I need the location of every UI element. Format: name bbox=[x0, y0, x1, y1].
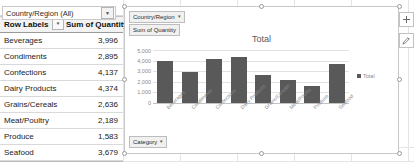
table-row[interactable]: Meat/Poultry 2,189 bbox=[0, 113, 123, 129]
table-row[interactable]: Grains/Cereals 2,636 bbox=[0, 97, 123, 113]
resize-handle-ne[interactable] bbox=[397, 4, 402, 9]
x-tick-label: Condiments bbox=[179, 105, 201, 135]
pivot-chart[interactable]: Country/Region ▾ Sum of Quantity Total 0… bbox=[124, 6, 399, 154]
legend-label-total: Total bbox=[363, 73, 375, 79]
bar[interactable] bbox=[231, 57, 247, 103]
report-filter-field[interactable]: Country/Region (All) ▼ bbox=[2, 6, 116, 20]
x-tick-label: Dairy Products bbox=[228, 105, 250, 135]
column-header-row-labels: Row Labels bbox=[4, 20, 48, 29]
row-label: Dairy Products bbox=[0, 84, 66, 93]
row-value: 2,895 bbox=[66, 52, 123, 61]
field-button-label: Sum of Quantity bbox=[133, 27, 176, 33]
chevron-down-icon[interactable]: ▾ bbox=[160, 140, 163, 145]
row-label: Confections bbox=[0, 68, 66, 77]
resize-handle-n[interactable] bbox=[259, 4, 264, 9]
bar-column[interactable] bbox=[154, 50, 176, 103]
x-tick-label: Grains/Cereals bbox=[252, 105, 274, 135]
bar[interactable] bbox=[182, 72, 198, 103]
report-filter-label: Country/Region (All) bbox=[3, 9, 101, 18]
row-label: Produce bbox=[0, 132, 66, 141]
bar[interactable] bbox=[329, 64, 345, 103]
paintbrush-icon bbox=[402, 36, 411, 45]
table-row[interactable]: Condiments 2,895 bbox=[0, 49, 123, 65]
resize-handle-sw[interactable] bbox=[122, 151, 127, 156]
row-label: Seafood bbox=[0, 148, 66, 157]
x-tick-label: Confections bbox=[203, 105, 225, 135]
x-tick-label: Produce bbox=[301, 105, 323, 135]
y-tick-label: 0 bbox=[148, 100, 151, 106]
pivot-table: Country/Region (All) ▼ Row Labels ▼ Sum … bbox=[0, 0, 123, 162]
chart-elements-button[interactable] bbox=[399, 12, 414, 27]
resize-handle-nw[interactable] bbox=[122, 4, 127, 9]
plus-icon bbox=[403, 16, 410, 23]
row-value: 3,996 bbox=[66, 36, 123, 45]
grand-total-row[interactable]: Grand Total 25,489 bbox=[0, 161, 123, 162]
chart-styles-button[interactable] bbox=[399, 33, 414, 48]
bar[interactable] bbox=[157, 61, 173, 103]
row-value: 4,374 bbox=[66, 84, 123, 93]
x-tick-label: Beverages bbox=[154, 105, 176, 135]
field-button-country-region[interactable]: Country/Region ▾ bbox=[129, 11, 185, 23]
field-button-label: Category bbox=[133, 139, 157, 145]
chart-legend[interactable]: Total bbox=[357, 73, 375, 79]
x-axis-labels: BeveragesCondimentsConfectionsDairy Prod… bbox=[153, 105, 349, 135]
bar[interactable] bbox=[206, 59, 222, 103]
row-value: 1,583 bbox=[66, 132, 123, 141]
table-row[interactable]: Produce 1,583 bbox=[0, 129, 123, 145]
row-value: 2,636 bbox=[66, 100, 123, 109]
chevron-down-icon[interactable]: ▼ bbox=[101, 7, 114, 19]
column-header-sum-of-quantity: Sum of Quantity bbox=[66, 20, 123, 29]
y-tick-label: 5,000 bbox=[137, 48, 151, 54]
table-row[interactable]: Confections 4,137 bbox=[0, 65, 123, 81]
table-row[interactable]: Seafood 3,679 bbox=[0, 145, 123, 161]
field-button-label: Country/Region bbox=[133, 14, 175, 20]
x-tick-label: Seafood bbox=[326, 105, 348, 135]
legend-swatch-total bbox=[357, 74, 361, 78]
resize-handle-s[interactable] bbox=[259, 151, 264, 156]
y-tick-label: 2,000 bbox=[137, 79, 151, 85]
row-value: 4,137 bbox=[66, 68, 123, 77]
y-tick-label: 4,000 bbox=[137, 58, 151, 64]
field-button-category[interactable]: Category ▾ bbox=[129, 136, 167, 148]
x-tick-label: Meat/Poultry bbox=[277, 105, 299, 135]
table-row[interactable]: Dairy Products 4,374 bbox=[0, 81, 123, 97]
row-label: Beverages bbox=[0, 36, 66, 45]
chart-title: Total bbox=[125, 34, 398, 44]
resize-handle-w[interactable] bbox=[122, 77, 127, 82]
chevron-down-icon[interactable]: ▾ bbox=[178, 15, 181, 20]
row-value: 3,679 bbox=[66, 148, 123, 157]
row-label: Meat/Poultry bbox=[0, 116, 66, 125]
excel-pivot-screenshot: Country/Region (All) ▼ Row Labels ▼ Sum … bbox=[0, 0, 414, 162]
table-row[interactable]: Beverages 3,996 bbox=[0, 33, 123, 49]
row-value: 2,189 bbox=[66, 116, 123, 125]
filter-dropdown-icon[interactable]: ▼ bbox=[52, 19, 64, 30]
resize-handle-e[interactable] bbox=[397, 77, 402, 82]
bar-column[interactable] bbox=[326, 50, 348, 103]
row-label: Grains/Cereals bbox=[0, 100, 66, 109]
y-tick-label: 3,000 bbox=[137, 68, 151, 74]
y-tick-label: 1,000 bbox=[137, 89, 151, 95]
row-label: Condiments bbox=[0, 52, 66, 61]
resize-handle-se[interactable] bbox=[397, 151, 402, 156]
